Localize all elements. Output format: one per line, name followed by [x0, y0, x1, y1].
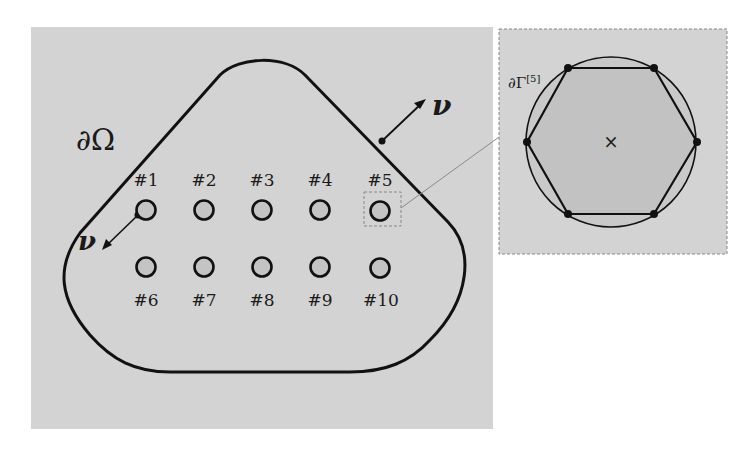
hole-7 — [195, 258, 214, 277]
hole-label-10: #10 — [363, 290, 399, 310]
hole-label-6: #6 — [133, 290, 158, 310]
hole-boundary-symbol: ∂Γ — [508, 74, 526, 92]
hole-label-3: #3 — [249, 170, 274, 190]
hole-4 — [311, 201, 330, 220]
center-marker: × — [603, 131, 618, 152]
hole-9 — [311, 258, 330, 277]
hole-6 — [137, 258, 156, 277]
outer-normal-label: ν — [432, 89, 451, 122]
hole-boundary-superscript: [5] — [526, 73, 540, 84]
hole-1 — [137, 201, 156, 220]
hole-3 — [253, 201, 272, 220]
hole-label-2: #2 — [191, 170, 216, 190]
figure: ∂Ω ν ν #1 #2 #3 #4 #5 — [0, 0, 753, 454]
hole-label-5: #5 — [367, 170, 392, 190]
hole-8 — [253, 258, 272, 277]
main-panel — [31, 27, 493, 429]
hole-2 — [195, 201, 214, 220]
hole-label-9: #9 — [307, 290, 332, 310]
hole-label-4: #4 — [307, 170, 332, 190]
hole-10 — [371, 259, 390, 278]
hole-label-7: #7 — [191, 290, 216, 310]
domain-boundary-label: ∂Ω — [76, 123, 115, 157]
inner-normal-label: ν — [78, 226, 96, 256]
hole-5 — [371, 202, 390, 221]
hole-label-1: #1 — [133, 170, 158, 190]
hole-label-8: #8 — [249, 290, 274, 310]
